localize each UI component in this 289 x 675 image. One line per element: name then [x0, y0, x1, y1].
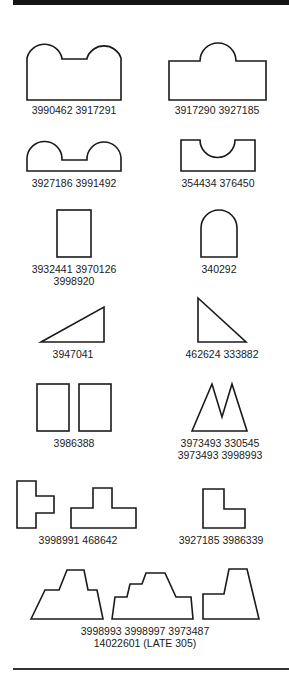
right-triangle-right-shape [198, 298, 246, 342]
t-block-horizontal-shape [71, 488, 136, 528]
stepped-pyramid-3-shape [203, 569, 259, 619]
caption-1: 3990462 3917291 [22, 104, 126, 116]
caption-line: 354434 376450 [170, 177, 266, 189]
l-block-shape [203, 489, 245, 528]
caption-line: 3998993 3998997 3973487 [70, 625, 220, 637]
caption-line: 3927185 3986339 [170, 534, 272, 546]
caption-5: 3932441 3970126 3998920 [22, 263, 126, 287]
t-block-vertical-shape [17, 481, 54, 528]
caption-2: 3917290 3927185 [164, 104, 270, 116]
right-triangle-left-shape [41, 307, 104, 342]
bottom-rule [13, 668, 289, 670]
stepped-pyramid-1-shape [31, 570, 103, 619]
single-bump-block-shape [169, 43, 266, 100]
arch-shape [201, 210, 237, 257]
double-bump-block-shape [27, 44, 121, 100]
brick-shapes-diagram [0, 0, 289, 675]
twin-rectangle-left-shape [37, 384, 69, 431]
caption-10: 3973493 330545 3973493 3998993 [170, 437, 270, 461]
caption-8: 462624 333882 [172, 348, 272, 360]
caption-line: 462624 333882 [172, 348, 272, 360]
caption-line: 3990462 3917291 [22, 104, 126, 116]
caption-line: 3998991 468642 [26, 534, 130, 546]
caption-line: 3927186 3991492 [22, 177, 126, 189]
caption-3: 3927186 3991492 [22, 177, 126, 189]
caption-6: 340292 [180, 263, 258, 275]
tall-rectangle-shape [57, 210, 91, 257]
caption-11: 3998991 468642 [26, 534, 130, 546]
caption-line: 3998920 [22, 275, 126, 287]
caption-12: 3927185 3986339 [170, 534, 272, 546]
caption-line: 3947041 [32, 348, 114, 360]
double-bump-low-shape [27, 141, 121, 171]
notched-block-shape [181, 140, 255, 171]
twin-rectangle-right-shape [79, 384, 111, 431]
caption-line: 3973493 3998993 [170, 449, 270, 461]
caption-line: 340292 [180, 263, 258, 275]
caption-line: 3932441 3970126 [22, 263, 126, 275]
stepped-pyramid-2-shape [112, 573, 193, 619]
caption-line: 3973493 330545 [170, 437, 270, 449]
caption-7: 3947041 [32, 348, 114, 360]
caption-9: 3986388 [34, 437, 114, 449]
caption-4: 354434 376450 [170, 177, 266, 189]
caption-13: 3998993 3998997 3973487 14022601 (LATE 3… [70, 625, 220, 649]
caption-line: 14022601 (LATE 305) [70, 637, 220, 649]
caption-line: 3986388 [34, 437, 114, 449]
twin-peaks-shape [192, 384, 247, 431]
caption-line: 3917290 3927185 [164, 104, 270, 116]
